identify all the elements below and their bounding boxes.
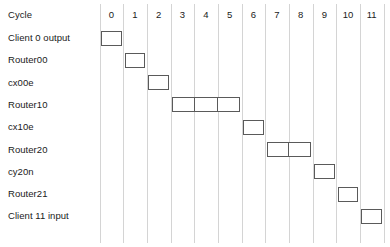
activity-bar[interactable]: [338, 187, 359, 202]
timeline-row: cx10e: [0, 116, 390, 138]
activity-bar[interactable]: [361, 209, 382, 224]
activity-bar-cell: [268, 143, 290, 156]
header-row: Cycle01234567891011: [0, 4, 390, 26]
row-label: Router00: [8, 49, 47, 71]
row-label: cx00e: [8, 72, 34, 94]
activity-bar[interactable]: [172, 97, 240, 112]
activity-bar-cell: [218, 98, 239, 111]
header-label: Cycle: [8, 4, 32, 26]
activity-bar-cell: [289, 143, 310, 156]
activity-bar[interactable]: [267, 142, 311, 157]
row-label: Client 0 output: [8, 27, 70, 49]
row-label: Router20: [8, 139, 47, 161]
cycle-number-9: 9: [313, 4, 337, 26]
timeline-row: Router10: [0, 94, 390, 116]
row-label: Router10: [8, 94, 47, 116]
activity-bar-cell: [102, 32, 121, 45]
activity-bar[interactable]: [101, 31, 122, 46]
row-label: cy20n: [8, 161, 34, 183]
activity-bar-cell: [195, 98, 217, 111]
cycle-number-0: 0: [100, 4, 124, 26]
activity-bar-cell: [126, 54, 145, 67]
cycle-number-11: 11: [360, 4, 384, 26]
activity-bar-cell: [339, 188, 358, 201]
timeline-row: Router20: [0, 139, 390, 161]
cycle-number-8: 8: [289, 4, 313, 26]
cycle-number-3: 3: [171, 4, 195, 26]
activity-bar[interactable]: [148, 75, 169, 90]
cycle-number-1: 1: [123, 4, 147, 26]
cycle-number-10: 10: [336, 4, 360, 26]
activity-bar-cell: [362, 210, 381, 223]
activity-bar-cell: [244, 121, 263, 134]
row-label: cx10e: [8, 116, 34, 138]
cycle-number-7: 7: [265, 4, 289, 26]
row-label: Client 11 input: [8, 205, 69, 227]
timeline-row: cy20n: [0, 161, 390, 183]
activity-bar[interactable]: [314, 164, 335, 179]
timing-diagram: Cycle01234567891011Client 0 outputRouter…: [0, 0, 390, 247]
activity-bar-cell: [173, 98, 195, 111]
activity-bar-cell: [315, 165, 334, 178]
cycle-number-5: 5: [218, 4, 242, 26]
cycle-number-2: 2: [147, 4, 171, 26]
timeline-row: cx00e: [0, 72, 390, 94]
cycle-number-4: 4: [194, 4, 218, 26]
row-label: Router21: [8, 183, 47, 205]
activity-bar[interactable]: [125, 53, 146, 68]
activity-bar-cell: [149, 76, 168, 89]
timeline-row: Router00: [0, 49, 390, 71]
cycle-number-6: 6: [242, 4, 266, 26]
timeline-row: Client 0 output: [0, 27, 390, 49]
timeline-row: Client 11 input: [0, 205, 390, 227]
activity-bar[interactable]: [243, 120, 264, 135]
timeline-row: Router21: [0, 183, 390, 205]
